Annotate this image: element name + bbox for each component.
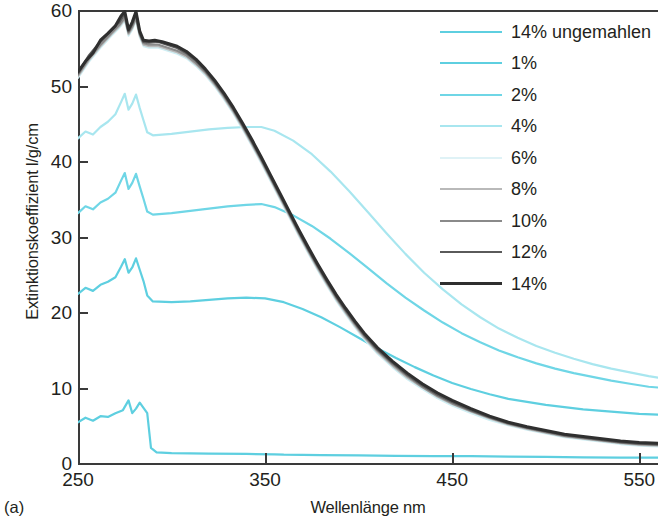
x-tick-label: 350 (230, 470, 300, 489)
legend-label: 1% (511, 54, 537, 72)
x-tick-mark (265, 453, 267, 464)
x-tick-label: 250 (43, 470, 113, 489)
x-tick-mark (452, 453, 454, 464)
legend-label: 12% (511, 243, 547, 261)
y-tick-label: 30 (24, 228, 72, 247)
legend-color-swatch (440, 31, 502, 33)
legend-color-swatch (440, 251, 502, 253)
legend-label: 10% (511, 212, 547, 230)
y-tick-mark (80, 237, 88, 239)
legend-item: 14% (440, 268, 666, 300)
y-tick-mark (80, 86, 88, 88)
chart-legend: 14% ungemahlen1%2%4%6%8%10%12%14% (440, 16, 666, 300)
legend-item: 1% (440, 48, 666, 80)
y-tick-mark (80, 312, 88, 314)
legend-color-swatch (440, 62, 502, 64)
legend-label: 6% (511, 149, 537, 167)
legend-label: 14% ungemahlen (511, 23, 651, 41)
legend-label: 2% (511, 86, 537, 104)
panel-caption: (a) (4, 498, 24, 517)
legend-item: 8% (440, 174, 666, 206)
legend-item: 4% (440, 111, 666, 143)
legend-label: 14% (511, 275, 547, 293)
x-tick-label: 450 (417, 470, 487, 489)
legend-label: 4% (511, 117, 537, 135)
y-tick-label: 20 (24, 303, 72, 322)
figure-panel-a: Extinktionskoeffizient l/g/cm 0102030405… (0, 0, 666, 531)
x-tick-mark (639, 453, 641, 464)
y-tick-mark (80, 161, 88, 163)
y-tick-label: 50 (24, 77, 72, 96)
legend-item: 2% (440, 79, 666, 111)
legend-item: 14% ungemahlen (440, 16, 666, 48)
x-axis-label: Wellenlänge nm (78, 498, 658, 517)
legend-label: 8% (511, 180, 537, 198)
y-tick-mark (80, 388, 88, 390)
y-tick-label: 10 (24, 379, 72, 398)
legend-item: 10% (440, 205, 666, 237)
x-tick-label: 550 (604, 470, 666, 489)
y-tick-label: 60 (24, 1, 72, 20)
y-tick-label: 40 (24, 152, 72, 171)
legend-color-swatch (440, 188, 502, 190)
legend-item: 12% (440, 237, 666, 269)
y-axis-tick-labels: 0102030405060 (18, 0, 72, 531)
legend-color-swatch (440, 282, 502, 285)
legend-color-swatch (440, 125, 502, 127)
legend-item: 6% (440, 142, 666, 174)
legend-color-swatch (440, 220, 502, 222)
legend-color-swatch (440, 157, 502, 159)
legend-color-swatch (440, 94, 502, 96)
